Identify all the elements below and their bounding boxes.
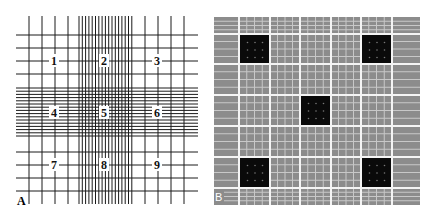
grid-b-thick-line [214, 156, 420, 158]
square-number-7: 7 [51, 158, 57, 172]
grid-b-thick-line [214, 63, 420, 65]
grid-b-drawing: B [214, 0, 433, 215]
grid-b-thick-line [214, 187, 420, 189]
grid-a-drawing: 123456789 A [0, 0, 214, 215]
square-number-9: 9 [154, 158, 160, 172]
grid-b-thick-line [269, 17, 271, 205]
grid-b-thick-line [299, 17, 301, 205]
square-number-2: 2 [101, 54, 107, 68]
square-number-6: 6 [154, 106, 160, 120]
panel-label-b: B [215, 191, 222, 203]
grid-b-thick-line [360, 17, 362, 205]
square-number-1: 1 [51, 54, 57, 68]
grid-b-thick-line [214, 94, 420, 96]
grid-b-thick-line [214, 33, 420, 35]
square-number-8: 8 [101, 158, 107, 172]
grid-b-thick-line [330, 17, 332, 205]
square-number-4: 4 [51, 106, 57, 120]
panel-b-highlighted-grid: B [214, 0, 433, 215]
panel-label-a: A [17, 194, 26, 208]
grid-b-thick-line [391, 17, 393, 205]
square-number-5: 5 [101, 106, 107, 120]
panel-a-hemocytometer-grid: 123456789 A [0, 0, 214, 215]
grid-b-thick-line [238, 17, 240, 205]
square-number-3: 3 [154, 54, 160, 68]
grid-b-thick-line [214, 125, 420, 127]
